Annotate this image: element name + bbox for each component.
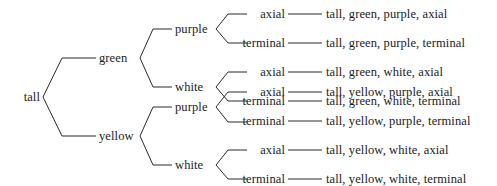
node-level3-axial-2: axial bbox=[260, 66, 285, 79]
outcome-6: tall, yellow, purple, terminal bbox=[326, 115, 471, 128]
outcome-5: tall, yellow, purple, axial bbox=[326, 86, 453, 99]
branch-green-to-white bbox=[140, 58, 172, 87]
node-level2-green-white: white bbox=[175, 81, 203, 94]
branch-green-to-purple bbox=[140, 29, 172, 58]
branch-gp-to-axial bbox=[216, 14, 247, 29]
outcome-1: tall, green, purple, axial bbox=[326, 8, 447, 21]
node-level1-yellow: yellow bbox=[99, 130, 134, 143]
branch-root-to-green bbox=[43, 58, 96, 97]
node-level3-terminal-3: terminal bbox=[243, 115, 285, 128]
outcome-2: tall, green, purple, terminal bbox=[326, 37, 465, 50]
branch-gw-to-axial bbox=[216, 72, 247, 87]
node-level1-green: green bbox=[99, 52, 127, 65]
node-level3-terminal-1: terminal bbox=[243, 37, 285, 50]
outcome-3: tall, green, white, axial bbox=[326, 66, 443, 79]
branch-diagram: tall green yellow purple white purple wh… bbox=[0, 0, 497, 186]
node-level3-terminal-4: terminal bbox=[243, 173, 285, 186]
node-level2-yellow-white: white bbox=[175, 159, 203, 172]
branch-root-to-yellow bbox=[43, 97, 96, 136]
node-root-tall: tall bbox=[24, 91, 40, 104]
branch-yellow-to-white bbox=[140, 136, 172, 165]
outcome-7: tall, yellow, white, axial bbox=[326, 144, 449, 157]
node-level3-axial-3: axial bbox=[260, 86, 285, 99]
node-level2-yellow-purple: purple bbox=[175, 101, 208, 114]
node-level3-axial-1: axial bbox=[260, 8, 285, 21]
outcome-8: tall, yellow, white, terminal bbox=[326, 173, 466, 186]
branch-yw-to-axial bbox=[216, 150, 247, 165]
node-level3-axial-4: axial bbox=[260, 144, 285, 157]
node-level2-green-purple: purple bbox=[175, 23, 208, 36]
branch-yellow-to-purple bbox=[140, 107, 172, 136]
